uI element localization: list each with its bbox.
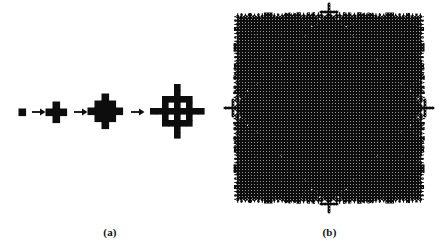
caption-panel-a: (a): [0, 226, 220, 238]
figure-root: (a) (b): [0, 0, 439, 248]
stage-4-cross-iteration-3: [150, 84, 205, 139]
diamond-fractal: [224, 3, 435, 214]
panel-a: (a): [0, 0, 220, 248]
panel-b-graphic: [220, 0, 439, 220]
stage-1-seed-square: [19, 109, 27, 117]
panel-a-graphic: [0, 0, 220, 220]
arrow-right-icon: [74, 109, 88, 116]
stage-2-cross-iteration-1: [46, 102, 68, 124]
arrow-right-icon: [131, 109, 145, 116]
caption-panel-b: (b): [220, 226, 439, 238]
iteration-sequence: [19, 84, 205, 139]
arrow-right-icon: [32, 109, 46, 116]
stage-3-cross-iteration-2: [88, 94, 124, 130]
panel-b: (b): [220, 0, 439, 248]
